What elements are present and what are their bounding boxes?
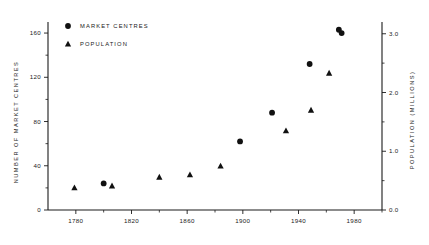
data-point-population	[283, 127, 289, 133]
data-point-population	[71, 184, 77, 190]
data-point-market-centres	[339, 30, 345, 36]
chart-canvas: 040801201600.01.02.03.017801820186019001…	[0, 0, 429, 245]
x-tick-label: 1900	[235, 217, 250, 224]
x-tick-label: 1780	[68, 217, 83, 224]
y-tick-label: 40	[33, 162, 41, 169]
x-tick-label: 1820	[124, 217, 139, 224]
y-tick-label: 0	[37, 206, 41, 213]
data-point-market-centres	[307, 61, 313, 67]
y2-tick-label: 0.0	[389, 206, 399, 213]
y2-tick-label: 2.0	[389, 89, 399, 96]
x-tick-label: 1860	[180, 217, 195, 224]
y2-tick-label: 1.0	[389, 147, 399, 154]
y-tick-label: 160	[30, 29, 42, 36]
data-point-population	[308, 107, 314, 113]
scatter-chart: 040801201600.01.02.03.017801820186019001…	[0, 0, 429, 245]
legend-marker-triangle	[65, 41, 71, 47]
data-point-market-centres	[269, 110, 275, 116]
data-point-market-centres	[101, 181, 107, 187]
legend-label-population: POPULATION	[80, 41, 128, 47]
data-point-population	[326, 70, 332, 76]
data-point-population	[187, 171, 193, 177]
x-tick-label: 1940	[291, 217, 306, 224]
data-point-population	[109, 183, 115, 189]
y2-tick-label: 3.0	[389, 30, 399, 37]
y-tick-label: 80	[33, 118, 41, 125]
legend-marker-circle	[65, 23, 71, 29]
right-axis-title: POPULATION (MILLIONS)	[409, 71, 415, 170]
x-tick-label: 1980	[347, 217, 362, 224]
left-axis-title: NUMBER OF MARKET CENTRES	[13, 61, 19, 184]
data-point-population	[217, 163, 223, 169]
y-tick-label: 120	[30, 73, 42, 80]
data-point-population	[156, 174, 162, 180]
data-point-market-centres	[237, 139, 243, 145]
legend-label-market-centres: MARKET CENTRES	[80, 23, 149, 29]
